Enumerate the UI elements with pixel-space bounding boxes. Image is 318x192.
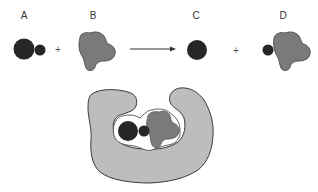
label-c: C (192, 10, 199, 21)
molecule-a-large-circle (14, 39, 35, 60)
molecule-c (187, 40, 207, 60)
plus-sign-1: + (55, 44, 61, 55)
molecule-a (14, 39, 46, 60)
label-b: B (90, 10, 97, 21)
reaction-diagram: A B C D + + (0, 0, 318, 192)
label-d: D (279, 10, 286, 21)
bound-molecule-a-large-circle (118, 121, 138, 141)
molecule-a-small-circle (35, 45, 46, 56)
molecule-d-blob (274, 32, 311, 71)
label-a: A (21, 10, 28, 21)
bound-molecule-a-small-circle (139, 126, 150, 137)
molecule-b (79, 32, 115, 71)
plus-sign-2: + (233, 45, 239, 56)
molecule-d (263, 32, 311, 71)
reaction-arrow (130, 47, 176, 52)
molecule-d-small-circle (263, 45, 274, 56)
enzyme-complex (88, 88, 213, 183)
